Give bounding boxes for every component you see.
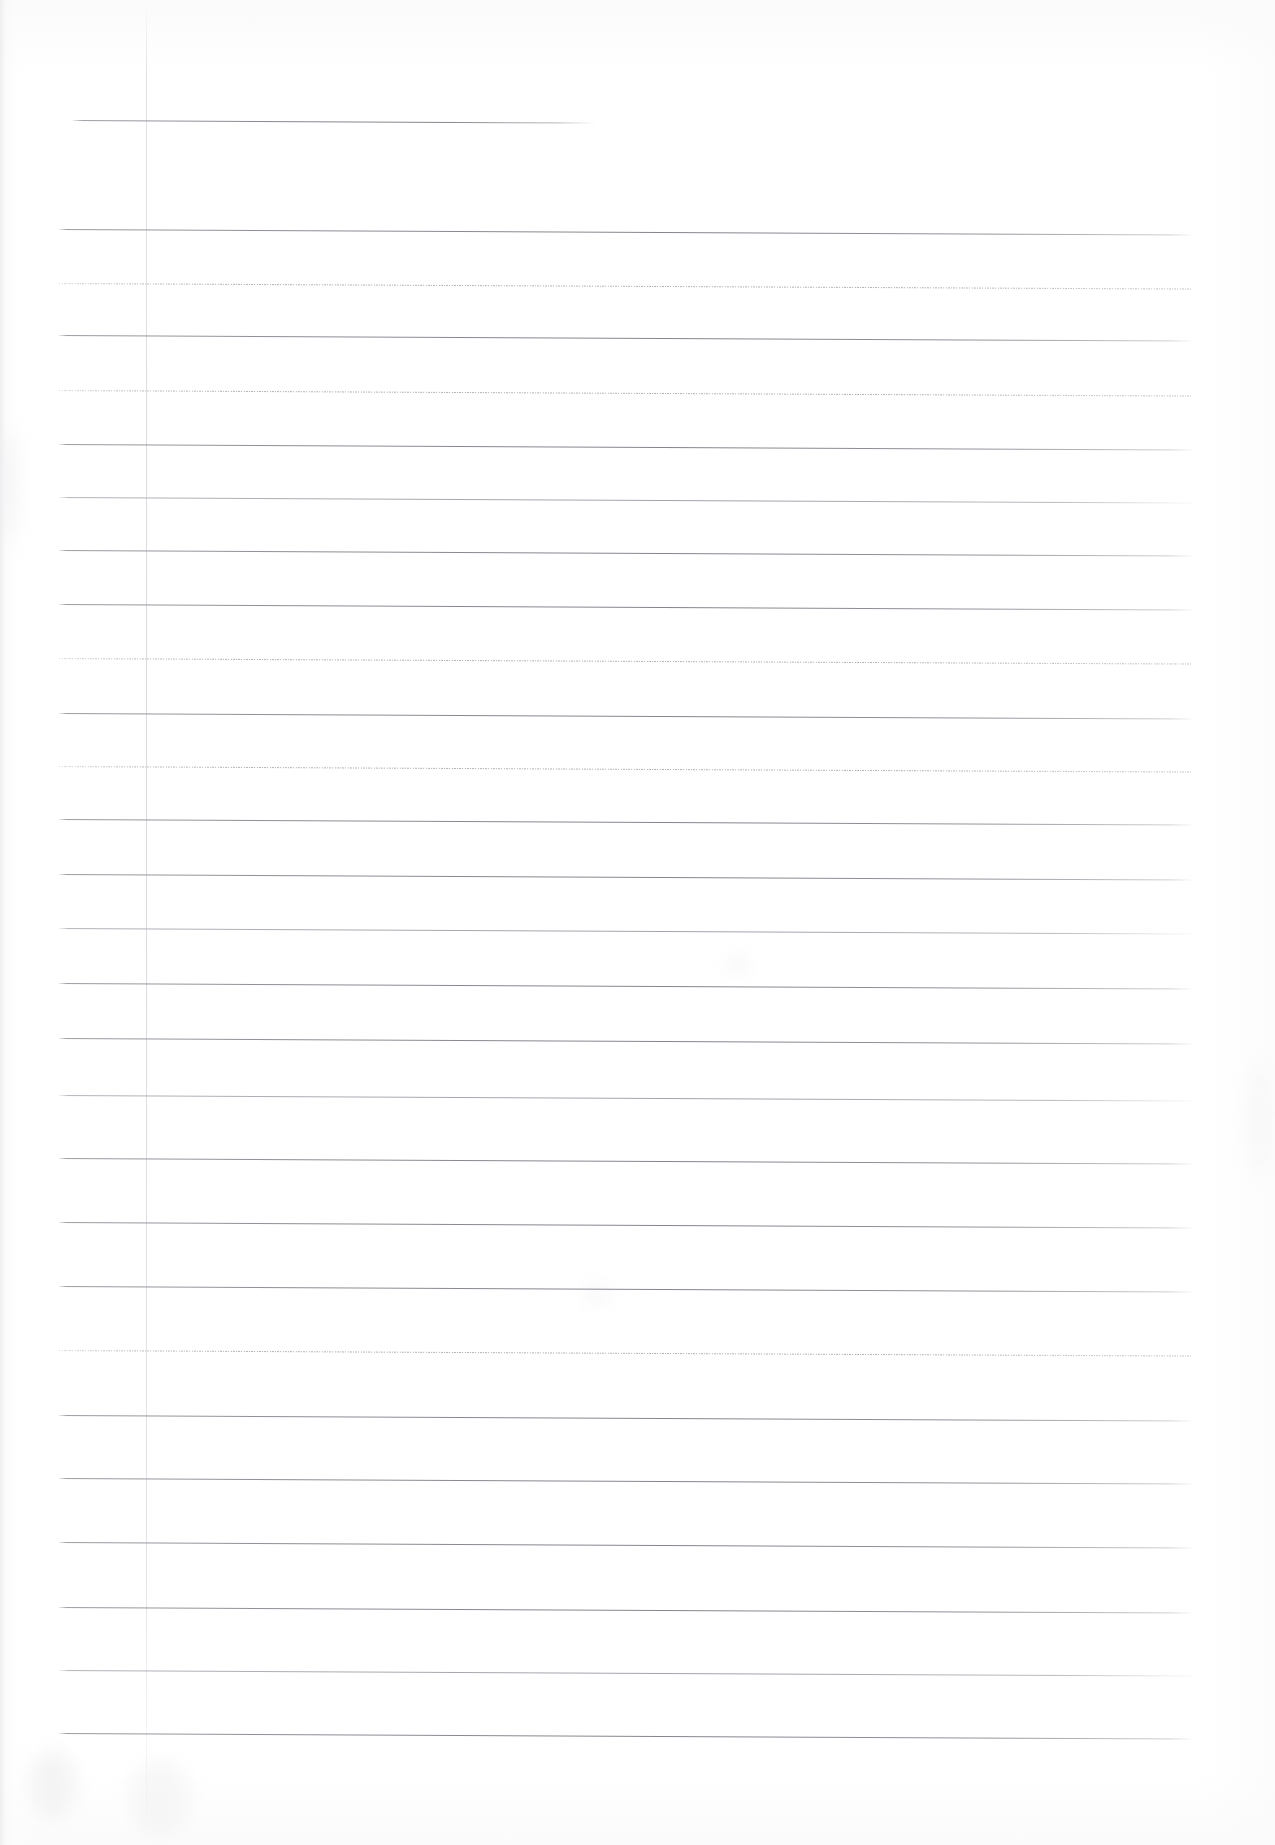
scan-blotch (0, 430, 16, 540)
scan-blotch (130, 1760, 190, 1840)
scanned-page (0, 0, 1275, 1845)
scan-blotch (30, 1750, 76, 1820)
scan-blotch (1246, 1060, 1275, 1180)
writing-area[interactable] (72, 120, 1193, 1740)
